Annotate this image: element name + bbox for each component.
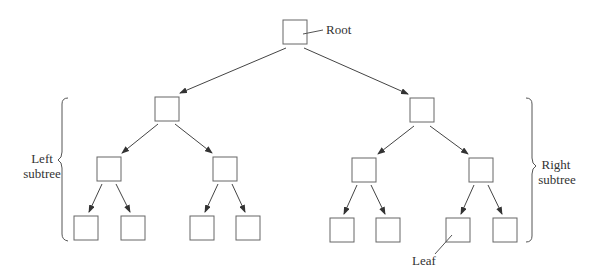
left-subtree-label-line1: Left <box>24 151 60 166</box>
tree-node-l1-left <box>155 97 179 121</box>
tree-node-leaf-6 <box>376 218 400 242</box>
tree-node-l2-1 <box>97 157 121 181</box>
tree-node-root <box>283 20 307 44</box>
tree-node-l2-4 <box>469 158 493 182</box>
tree-node-leaf-5 <box>330 218 354 242</box>
binary-tree-diagram <box>0 0 591 278</box>
tree-node-l2-3 <box>352 158 376 182</box>
right-subtree-brace <box>526 98 536 242</box>
left-subtree-label-line2: subtree <box>20 166 64 181</box>
right-subtree-label-line1: Right <box>536 157 576 172</box>
right-subtree-label-line2: subtree <box>534 172 580 187</box>
tree-node-l1-right <box>410 98 434 122</box>
root-label: Root <box>326 22 351 37</box>
tree-node-leaf-3 <box>190 216 214 240</box>
tree-node-leaf-4 <box>236 216 260 240</box>
tree-node-l2-2 <box>213 157 237 181</box>
tree-node-leaf-8 <box>493 218 517 242</box>
tree-node-leaf-2 <box>121 216 145 240</box>
tree-node-leaf-1 <box>74 216 98 240</box>
leaf-label: Leaf <box>412 253 436 268</box>
